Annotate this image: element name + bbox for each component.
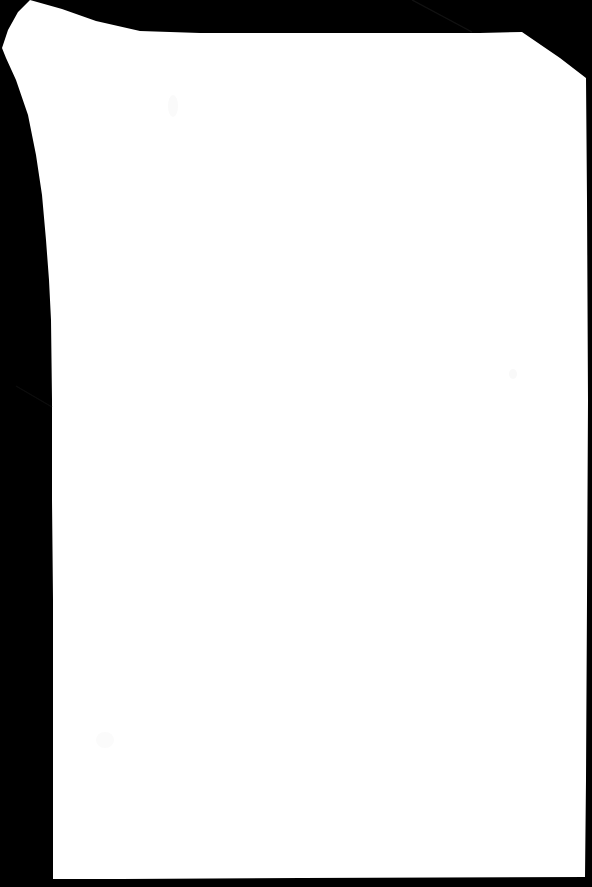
faint-smudge-lower-artifact bbox=[96, 732, 114, 748]
faint-smudge-upper-artifact bbox=[168, 95, 178, 117]
faint-smudge-mid-right-artifact bbox=[509, 369, 517, 379]
mask-canvas: Binary mask of a scanned page: white pag… bbox=[0, 0, 592, 887]
page-mask-shape bbox=[2, 0, 588, 879]
segmentation-mask-svg bbox=[0, 0, 592, 887]
